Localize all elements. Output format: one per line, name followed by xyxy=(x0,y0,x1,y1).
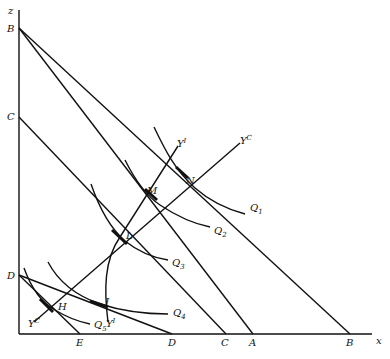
production-diagram: z x B C D E D C A B N M L J H Q1 Q2 Q3 Q… xyxy=(0,0,390,359)
expansion-label-yc-bottom: YC xyxy=(28,318,40,329)
expansion-label-yi-bottom: YI xyxy=(106,318,115,329)
point-n: N xyxy=(186,176,195,186)
x-axis-label: x xyxy=(376,336,382,346)
point-h: H xyxy=(58,302,67,312)
expansion-path-yc xyxy=(34,143,240,322)
isoquant-label-q1: Q1 xyxy=(250,203,263,216)
expansion-label-yi-top: YI xyxy=(177,138,186,149)
isoquant-label-q5: Q5 xyxy=(94,320,107,333)
isoquant-label-q3: Q3 xyxy=(172,258,185,271)
point-l: L xyxy=(126,231,133,241)
x-intercept-c: C xyxy=(221,338,229,348)
isocost-C-C xyxy=(19,117,226,334)
y-intercept-b: B xyxy=(7,24,14,34)
isocost-B-B xyxy=(19,28,350,334)
x-intercept-e: E xyxy=(76,338,83,348)
isoquant-label-q2: Q2 xyxy=(214,226,227,239)
isoquant-q1 xyxy=(154,127,245,214)
y-intercept-d: D xyxy=(7,271,15,281)
y-intercept-c: C xyxy=(7,112,15,122)
isoquant-label-q4: Q4 xyxy=(173,308,186,321)
z-axis-label: z xyxy=(8,6,13,16)
point-j: J xyxy=(105,297,109,307)
x-intercept-d: D xyxy=(168,338,176,348)
x-intercept-a: A xyxy=(249,338,256,348)
expansion-label-yc-top: YC xyxy=(240,135,252,146)
point-m: M xyxy=(147,186,157,196)
x-intercept-b: B xyxy=(346,338,353,348)
